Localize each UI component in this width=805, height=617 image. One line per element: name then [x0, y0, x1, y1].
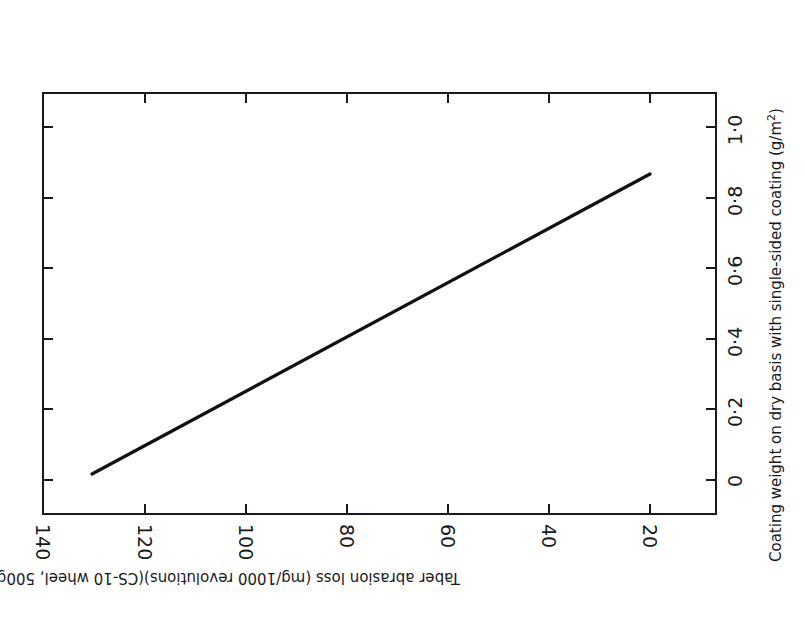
x-tick-label: 80	[336, 524, 358, 548]
y-tick-label: 0·4	[724, 327, 746, 357]
y-axis-title: Coating weight on dry basis with single-…	[765, 108, 785, 562]
y-axis-ticks	[43, 127, 716, 480]
data-line	[92, 174, 650, 474]
y-tick-labels: 0 0·2 0·4 0·6 0·8 1·0	[724, 115, 746, 487]
chart: 140 120 100 80 60 40 20 Taber abrasion l…	[0, 0, 805, 617]
y-axis-title-main: Coating weight on dry basis with single-…	[767, 121, 785, 562]
y-axis-title-end: )	[767, 108, 785, 114]
y-axis-title-sup: 2	[765, 114, 778, 121]
x-axis-title: Taber abrasion loss (mg/1000 revolutions…	[0, 569, 461, 587]
y-tick-label: 1·0	[724, 115, 746, 145]
y-tick-label: 0·8	[724, 186, 746, 216]
x-tick-label: 100	[235, 524, 257, 560]
plot-frame	[43, 93, 716, 514]
x-tick-labels: 140 120 100 80 60 40 20	[32, 524, 661, 560]
x-tick-label: 40	[538, 524, 560, 548]
x-tick-label: 60	[437, 524, 459, 548]
x-tick-label: 120	[134, 524, 156, 560]
y-tick-label: 0·2	[724, 397, 746, 427]
y-tick-label: 0	[724, 475, 746, 487]
x-tick-label: 140	[32, 524, 54, 560]
x-axis-ticks	[145, 93, 650, 514]
y-tick-label: 0·6	[724, 256, 746, 286]
x-tick-label: 20	[639, 524, 661, 548]
